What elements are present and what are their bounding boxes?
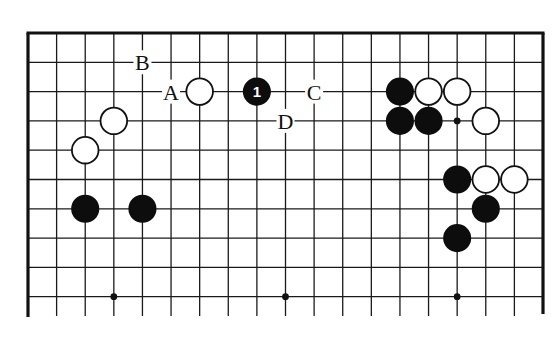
go-board: BACD 1 (0, 0, 560, 343)
label-text: A (163, 80, 179, 105)
white-stone (72, 137, 99, 164)
point-label-d: D (277, 109, 295, 134)
black-stone-disc (444, 225, 471, 252)
black-stone-disc (129, 196, 156, 223)
star-point (282, 293, 289, 300)
point-label-a: A (162, 80, 180, 105)
black-stone-disc (415, 108, 442, 135)
black-stone (387, 108, 414, 135)
white-stone-disc (444, 78, 471, 105)
black-stone-disc (387, 108, 414, 135)
go-board-diagram: BACD 1 (0, 0, 560, 343)
white-stone-disc (186, 78, 213, 105)
star-point (110, 293, 117, 300)
label-text: B (135, 50, 150, 75)
white-stone (472, 108, 499, 135)
white-stone-disc (72, 137, 99, 164)
star-point (454, 293, 461, 300)
black-stone: 1 (244, 78, 271, 105)
black-stone (444, 225, 471, 252)
black-stone (472, 196, 499, 223)
black-stone (387, 78, 414, 105)
white-stone-disc (101, 108, 128, 135)
white-stone-disc (415, 78, 442, 105)
white-stone (186, 78, 213, 105)
label-text: C (307, 80, 322, 105)
black-stone (415, 108, 442, 135)
white-stone (501, 166, 528, 193)
move-number: 1 (253, 83, 261, 100)
point-label-c: C (305, 80, 323, 105)
black-stone (72, 196, 99, 223)
star-point (454, 118, 461, 125)
black-stone-disc (72, 196, 99, 223)
white-stone-disc (472, 166, 499, 193)
white-stone-disc (472, 108, 499, 135)
white-stone (101, 108, 128, 135)
white-stone-disc (501, 166, 528, 193)
white-stone (415, 78, 442, 105)
stones: 1 (72, 78, 528, 251)
point-label-b: B (133, 50, 151, 75)
black-stone (129, 196, 156, 223)
white-stone (472, 166, 499, 193)
black-stone (444, 166, 471, 193)
white-stone (444, 78, 471, 105)
black-stone-disc (387, 78, 414, 105)
black-stone-disc (444, 166, 471, 193)
black-stone-disc (472, 196, 499, 223)
label-text: D (278, 109, 294, 134)
